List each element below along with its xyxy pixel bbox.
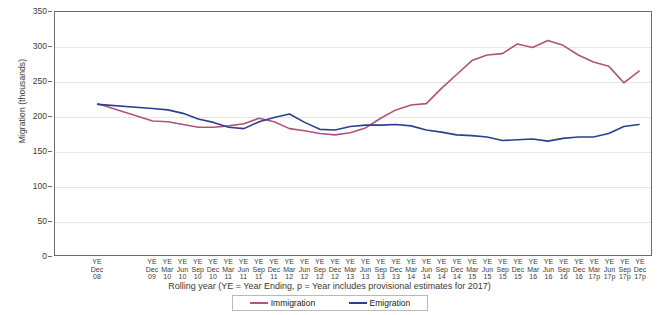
x-tick-label: YEDec17p	[627, 258, 653, 281]
y-tick-mark	[48, 221, 52, 222]
migration-line-chart: Migration (thousands) 050100150200250300…	[0, 0, 659, 315]
y-tick-label: 200	[33, 111, 47, 121]
y-tick-label: 100	[33, 181, 47, 191]
series-line-immigration	[98, 40, 639, 134]
y-tick-label: 350	[33, 6, 47, 16]
y-tick-mark	[48, 151, 52, 152]
plot-area	[54, 11, 652, 256]
x-axis-title: Rolling year (YE = Year Ending, p = Year…	[0, 281, 659, 291]
y-tick-mark	[48, 81, 52, 82]
series-svg	[55, 12, 651, 255]
y-tick-label: 300	[33, 41, 47, 51]
legend-swatch-icon	[250, 302, 268, 304]
y-tick-label: 150	[33, 146, 47, 156]
legend-label: Immigration	[271, 298, 315, 308]
legend-item[interactable]: Immigration	[250, 298, 315, 308]
y-tick-mark	[48, 46, 52, 47]
series-line-emigration	[98, 104, 639, 141]
chart-legend: ImmigrationEmigration	[232, 295, 428, 311]
y-tick-mark	[48, 256, 52, 257]
y-tick-label: 50	[38, 216, 47, 226]
y-tick-mark	[48, 11, 52, 12]
legend-label: Emigration	[370, 298, 411, 308]
y-tick-label: 250	[33, 76, 47, 86]
x-tick-label: YEDec08	[84, 258, 110, 281]
y-axis-ticks: 050100150200250300350	[0, 0, 52, 256]
legend-item[interactable]: Emigration	[349, 298, 411, 308]
y-tick-mark	[48, 116, 52, 117]
series-canvas	[55, 12, 651, 255]
legend-swatch-icon	[349, 302, 367, 304]
y-tick-mark	[48, 186, 52, 187]
